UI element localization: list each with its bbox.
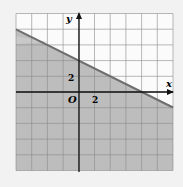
graph-svg: x y O 2 2 — [0, 0, 183, 187]
y-axis-label: y — [65, 13, 73, 24]
x-tick-label: 2 — [92, 95, 98, 105]
inequality-graph: x y O 2 2 — [0, 0, 183, 187]
origin-label: O — [68, 94, 77, 105]
x-axis-label: x — [165, 78, 173, 89]
y-tick-label: 2 — [68, 73, 74, 83]
